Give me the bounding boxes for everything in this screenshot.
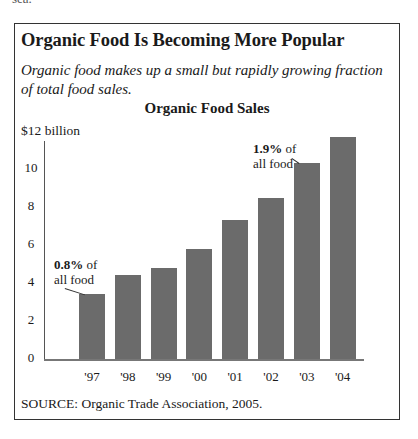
bar-y97	[79, 294, 105, 359]
x-tick-label: '98	[113, 369, 143, 385]
bar-chart-plot: 0246810'97'98'99'00'01'02'03'040.8% ofal…	[15, 24, 399, 419]
x-tick-label: '03	[292, 369, 322, 385]
x-tick-label: '00	[184, 369, 214, 385]
y-tick-label: 4	[21, 274, 41, 290]
y-tick-label: 0	[21, 350, 41, 366]
y-tick-label: 2	[21, 312, 41, 328]
x-tick-label: '04	[328, 369, 358, 385]
bar-y04	[330, 137, 356, 359]
y-tick-label: 10	[21, 160, 41, 176]
x-tick-label: '99	[149, 369, 179, 385]
x-tick-label: '97	[77, 369, 107, 385]
bar-y03	[294, 163, 320, 359]
y-tick-label: 6	[21, 236, 41, 252]
y-tick-label: 8	[21, 198, 41, 214]
bar-y98	[115, 275, 141, 359]
bar-y00	[186, 249, 212, 359]
annotation-leader-line	[65, 288, 85, 295]
x-axis-line	[44, 359, 364, 361]
figure-box: Organic Food Is Becoming More Popular Or…	[14, 23, 400, 420]
bar-y01	[222, 220, 248, 359]
source-note: SOURCE: Organic Trade Association, 2005.	[21, 396, 262, 412]
x-tick-label: '01	[220, 369, 250, 385]
annotation-0-8pct: 0.8% ofall food	[54, 257, 97, 287]
x-tick-label: '02	[256, 369, 286, 385]
bar-y02	[258, 198, 284, 360]
annotation-1-9pct: 1.9% ofall food	[253, 141, 296, 171]
y-axis-line	[44, 141, 45, 359]
clipped-previous-text: sea.	[12, 0, 32, 7]
bar-y99	[151, 268, 177, 359]
